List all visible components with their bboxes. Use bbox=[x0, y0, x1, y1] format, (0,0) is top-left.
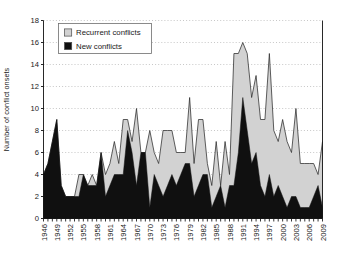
x-tick-label: 1979 bbox=[186, 224, 195, 241]
legend-swatch bbox=[65, 29, 72, 36]
x-tick-label: 1955 bbox=[79, 224, 88, 241]
y-tick-label: 14 bbox=[31, 60, 39, 69]
x-tick-label: 1997 bbox=[265, 224, 274, 241]
x-tick-label: 1994 bbox=[252, 224, 261, 241]
x-tick-label: 1949 bbox=[53, 224, 62, 241]
legend-swatch bbox=[65, 42, 72, 49]
x-tick-label: 1952 bbox=[66, 224, 75, 241]
y-tick-label: 12 bbox=[31, 82, 39, 91]
x-tick-label: 1985 bbox=[212, 224, 221, 241]
legend-label: Recurrent conflicts bbox=[76, 28, 141, 37]
x-tick-label: 1988 bbox=[226, 224, 235, 241]
x-tick-label: 1973 bbox=[159, 224, 168, 241]
x-tick-label: 1976 bbox=[172, 224, 181, 241]
x-tick-label: 2003 bbox=[292, 224, 301, 241]
y-axis-ticks: 024681012141618 bbox=[31, 16, 44, 223]
x-tick-label: 1961 bbox=[106, 224, 115, 241]
y-tick-label: 4 bbox=[35, 170, 39, 179]
y-tick-label: 0 bbox=[35, 214, 39, 223]
y-tick-label: 8 bbox=[35, 126, 39, 135]
x-tick-label: 2006 bbox=[305, 224, 314, 241]
x-axis-ticks: 1946194919521955195819611964196719701973… bbox=[40, 219, 328, 241]
y-tick-label: 18 bbox=[31, 16, 39, 25]
x-tick-label: 2009 bbox=[319, 224, 328, 241]
x-tick-label: 1967 bbox=[133, 224, 142, 241]
chart-figure: Number of conflict onsets 02468101214161… bbox=[0, 0, 338, 271]
x-tick-label: 1970 bbox=[146, 224, 155, 241]
x-tick-label: 2000 bbox=[279, 224, 288, 241]
y-tick-label: 6 bbox=[35, 148, 39, 157]
y-tick-label: 2 bbox=[35, 192, 39, 201]
x-tick-label: 1964 bbox=[119, 224, 128, 241]
x-tick-label: 1958 bbox=[93, 224, 102, 241]
legend-label: New conflicts bbox=[76, 42, 122, 51]
y-tick-label: 10 bbox=[31, 104, 39, 113]
stacked-area-chart: 0246810121416181946194919521955195819611… bbox=[0, 0, 338, 271]
plot-area-wrapper: 0246810121416181946194919521955195819611… bbox=[0, 0, 338, 271]
x-tick-label: 1991 bbox=[239, 224, 248, 241]
x-tick-label: 1982 bbox=[199, 224, 208, 241]
x-tick-label: 1946 bbox=[40, 224, 49, 241]
chart-legend: Recurrent conflictsNew conflicts bbox=[59, 24, 152, 54]
y-tick-label: 16 bbox=[31, 38, 39, 47]
